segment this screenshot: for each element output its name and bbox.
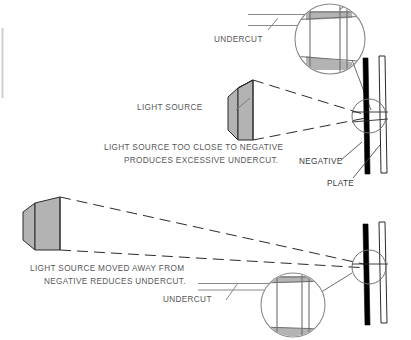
- light-source-front-face-top: [228, 88, 238, 140]
- light-source-body-face-top: [238, 80, 253, 140]
- magnifier-circle-bottom: [261, 273, 325, 337]
- undercut-diagram-svg: UNDERCUT LIGHT SOURCE: [0, 0, 411, 340]
- caption-bottom-line2: NEGATIVE REDUCES UNDERCUT.: [44, 277, 186, 286]
- light-source-label-top: LIGHT SOURCE: [137, 103, 203, 112]
- light-source-body-face-bottom: [35, 197, 60, 250]
- caption-bottom-line1: LIGHT SOURCE MOVED AWAY FROM: [30, 264, 184, 273]
- caption-top-line2: PRODUCES EXCESSIVE UNDERCUT.: [124, 156, 278, 165]
- plate-bar-bottom: [379, 222, 387, 323]
- undercut-label-top: UNDERCUT: [214, 35, 263, 44]
- negative-label: NEGATIVE: [299, 157, 343, 166]
- undercut-label-bottom: UNDERCUT: [163, 295, 212, 304]
- plate-label: PLATE: [327, 179, 354, 188]
- diagram-canvas: UNDERCUT LIGHT SOURCE: [0, 0, 411, 340]
- caption-top-line1: LIGHT SOURCE TOO CLOSE TO NEGATIVE: [104, 143, 284, 152]
